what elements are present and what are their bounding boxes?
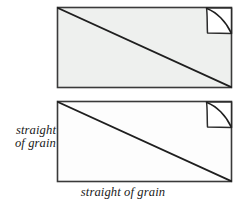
- straight-of-grain-horizontal-label: straight of grain: [0, 186, 246, 199]
- straight-of-grain-vertical-label-line2: of grain: [0, 137, 56, 150]
- top-panel-folded-corner-flap: [207, 8, 232, 34]
- top-fabric-panel: [58, 8, 232, 88]
- bottom-fabric-panel: [58, 102, 232, 182]
- grain-diagram-figure: [0, 0, 246, 211]
- grain-diagram: straight of grain straight of grain: [0, 0, 246, 211]
- top-flap-shape: [207, 8, 232, 34]
- straight-of-grain-vertical-label: straight of grain: [0, 124, 56, 151]
- bottom-panel-folded-corner-flap: [207, 102, 232, 128]
- bottom-flap-shape: [207, 102, 232, 128]
- straight-of-grain-vertical-label-line1: straight: [0, 124, 56, 137]
